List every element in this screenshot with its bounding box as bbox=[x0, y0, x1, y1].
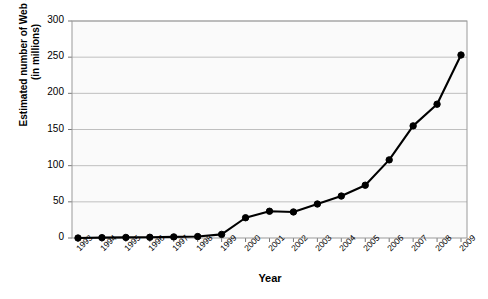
line-chart-plot bbox=[0, 0, 488, 299]
data-point bbox=[338, 193, 344, 199]
data-point bbox=[242, 215, 248, 221]
data-point bbox=[434, 101, 440, 107]
data-point bbox=[362, 182, 368, 188]
chart-figure: a growing number of people are turning t… bbox=[0, 0, 488, 299]
data-point bbox=[266, 208, 272, 214]
data-point bbox=[410, 123, 416, 129]
data-point bbox=[458, 52, 464, 58]
x-axis-title: Year bbox=[0, 272, 488, 284]
data-point bbox=[314, 201, 320, 207]
data-point bbox=[218, 231, 224, 237]
data-point bbox=[386, 157, 392, 163]
data-point bbox=[290, 209, 296, 215]
